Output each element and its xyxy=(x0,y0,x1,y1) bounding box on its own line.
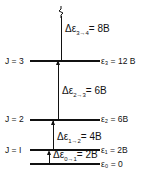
energy-level-3 xyxy=(30,60,100,62)
energy-label-3: ε₃ = 12 B xyxy=(101,56,135,66)
level-label-j1: J = I xyxy=(5,145,21,155)
break-icon xyxy=(57,6,65,18)
transition-label-3-4: Δε3→4= 8B xyxy=(65,24,110,38)
transition-arrow-3-4 xyxy=(61,16,62,60)
arrowhead-icon xyxy=(56,60,60,65)
level-label-j3: J = 3 xyxy=(5,56,24,66)
transition-arrow-2-3 xyxy=(58,63,59,119)
arrowhead-icon xyxy=(47,150,51,155)
energy-label-0: ε₀ = 0 xyxy=(101,159,123,169)
transition-label-1-2: Δε1→2= 4B xyxy=(57,132,102,146)
transition-arrow-1-2 xyxy=(53,121,54,149)
transition-label-2-3: Δε2→3= 6B xyxy=(62,86,107,100)
energy-level-0 xyxy=(30,163,100,165)
energy-label-2: ε₂ = 6B xyxy=(101,114,128,124)
level-label-j2: J = 2 xyxy=(5,114,24,124)
energy-label-1: ε₁ = 2B xyxy=(101,145,128,155)
arrowhead-icon xyxy=(51,120,55,125)
energy-level-2 xyxy=(30,119,100,121)
transition-label-0-1: Δε0→1= 2B xyxy=(53,150,98,164)
